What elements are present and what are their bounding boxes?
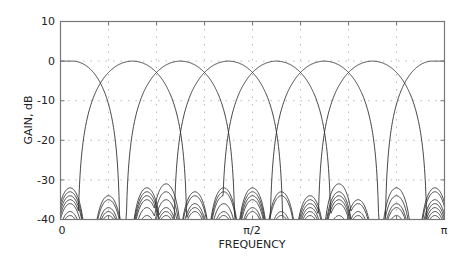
x-tick-pi: π xyxy=(441,224,448,237)
x-tick-0: 0 xyxy=(59,224,66,237)
y-axis-title: GAIN, dB xyxy=(22,95,35,144)
y-tick-minus-40: -40 xyxy=(37,213,55,226)
filter-response-curves xyxy=(61,61,445,219)
channel-response-curve xyxy=(61,61,445,219)
grid-lines xyxy=(61,22,445,220)
y-tick-minus-20: -20 xyxy=(37,134,55,147)
x-tick-pi-half: π/2 xyxy=(243,224,260,237)
filter-bank-chart: 10 0 -10 -20 -30 -40 0 π/2 π FREQUENCY G… xyxy=(0,0,469,263)
x-axis-title: FREQUENCY xyxy=(218,238,285,251)
y-tick-0: 0 xyxy=(48,55,55,68)
y-tick-10: 10 xyxy=(41,15,55,28)
y-tick-minus-10: -10 xyxy=(37,94,55,107)
y-tick-minus-30: -30 xyxy=(37,174,55,187)
